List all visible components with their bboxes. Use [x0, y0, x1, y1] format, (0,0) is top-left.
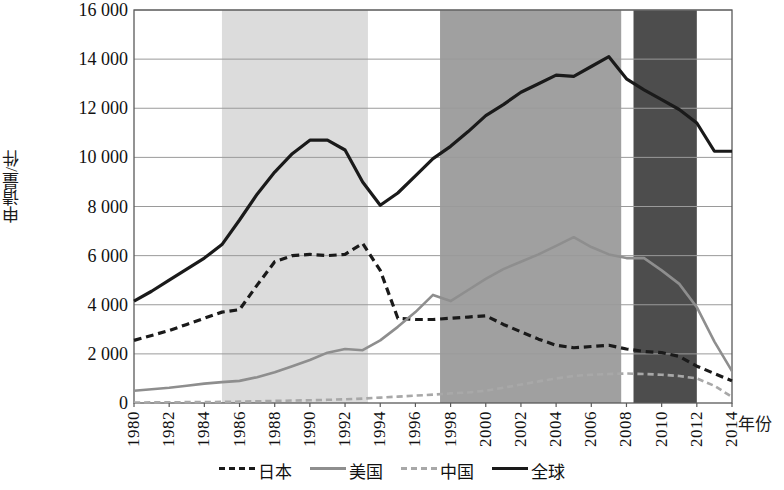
- x-axis-tick-label: 1984: [195, 411, 212, 447]
- x-axis-tick-label: 1988: [266, 411, 283, 447]
- x-axis-tick-label: 1980: [125, 411, 142, 447]
- chart-figure: 申请量/件 16 00014 00012 00010 0008 0006 000…: [0, 0, 784, 490]
- x-axis-tick-label: 2002: [512, 411, 529, 447]
- legend-swatch-icon: [401, 467, 437, 470]
- legend-label: 全球: [531, 458, 565, 483]
- x-axis-tick-label: 2010: [653, 411, 670, 447]
- legend-item-美国[interactable]: 美国: [310, 458, 383, 483]
- x-axis-tick-label: 2000: [477, 411, 494, 447]
- x-axis-tick-label: 1986: [231, 411, 248, 447]
- legend-label: 中国: [440, 458, 474, 483]
- x-axis-tick-label: 1998: [442, 411, 459, 447]
- legend-label: 美国: [349, 458, 383, 483]
- chart-legend: 日本美国中国全球: [0, 458, 784, 483]
- legend-swatch-icon: [310, 467, 346, 470]
- x-axis-tick-label: 1994: [371, 411, 388, 447]
- x-axis-tick-label: 1992: [336, 411, 353, 447]
- x-axis-tick-label: 2008: [617, 411, 634, 447]
- x-axis-tick-label: 2012: [688, 411, 705, 447]
- x-axis-tick-label: 1990: [301, 411, 318, 447]
- legend-swatch-icon: [492, 467, 528, 470]
- legend-item-全球[interactable]: 全球: [492, 458, 565, 483]
- x-axis-tick-label: 2004: [547, 411, 564, 447]
- x-axis-tick-label: 1982: [160, 411, 177, 447]
- legend-item-日本[interactable]: 日本: [219, 458, 292, 483]
- legend-swatch-icon: [219, 467, 255, 470]
- legend-item-中国[interactable]: 中国: [401, 458, 474, 483]
- x-axis-tick-label: 1996: [406, 411, 423, 447]
- x-axis-tick-label: 2006: [582, 411, 599, 447]
- x-axis-title: 年份: [738, 410, 772, 435]
- legend-label: 日本: [258, 458, 292, 483]
